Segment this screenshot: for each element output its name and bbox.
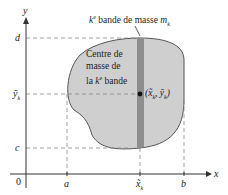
x-tick-xk: x̃k (136, 179, 143, 191)
centroid-diagram: y x 0 d ỹk c a x̃k b ke bande de masse m… (0, 0, 228, 195)
x-tick-a: a (64, 179, 69, 189)
diagram-graphics (0, 0, 228, 195)
y-axis-label: y (23, 6, 27, 16)
centroid-coordinates-label: (x̃k, ỹk) (145, 89, 170, 100)
origin-label: 0 (16, 177, 21, 187)
x-axis-arrow-icon (206, 171, 212, 177)
center-of-mass-label: Centre de masse de la ke bande (86, 48, 127, 87)
x-axis-label: x (214, 169, 218, 179)
y-tick-d: d (15, 33, 20, 43)
y-axis-arrow-icon (23, 17, 29, 24)
y-tick-yk: ỹk (13, 89, 20, 101)
x-tick-b: b (181, 179, 186, 189)
y-tick-c: c (15, 143, 19, 153)
centroid-point (138, 92, 143, 97)
strip-label: ke bande de masse mk (89, 14, 170, 27)
strip-pointer (135, 26, 140, 36)
